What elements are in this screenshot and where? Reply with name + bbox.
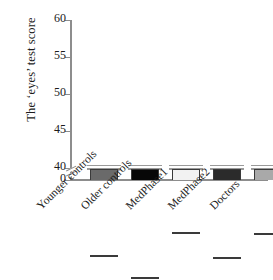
y-tick-label-45: 45 <box>54 123 66 135</box>
x-tick-label-doctors: Doctors <box>208 178 242 212</box>
bar-body <box>90 255 118 257</box>
bar-body <box>213 257 241 259</box>
plot-area: 60 55 50 45 40 0 <box>70 18 268 182</box>
bar-body <box>172 232 200 234</box>
bar-body <box>131 277 159 279</box>
y-axis-line <box>70 20 72 180</box>
y-tick-label-60: 60 <box>54 12 66 24</box>
y-tick-label-50: 50 <box>54 86 66 98</box>
bar-stub <box>213 169 241 180</box>
chart-figure: The ‘eyes’ test score 60 55 50 45 40 0 <box>0 0 273 280</box>
y-axis-title: The ‘eyes’ test score <box>24 0 39 155</box>
bar-body <box>254 233 273 235</box>
bar-stub <box>254 169 273 180</box>
y-tick-label-55: 55 <box>54 49 66 61</box>
